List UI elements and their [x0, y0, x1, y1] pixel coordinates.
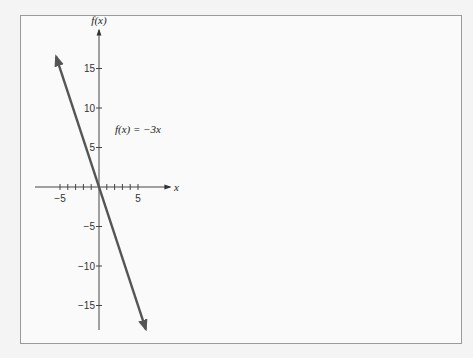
function-annotation: f(x) = −3x: [115, 123, 161, 136]
y-tick-label: −5: [84, 221, 96, 232]
y-tick-label: −10: [78, 261, 95, 272]
y-axis-label: f(x): [91, 14, 107, 27]
scan-artifact: [1, 328, 7, 342]
function-line: [56, 57, 146, 330]
y-tick-label: −15: [78, 300, 95, 311]
chart: −5515105−5−10−15xf(x)f(x) = −3x: [0, 0, 473, 358]
y-tick-label: 10: [84, 103, 96, 114]
x-tick-label: −5: [54, 193, 66, 204]
x-axis-label: x: [173, 181, 179, 193]
y-tick-label: 5: [89, 142, 95, 153]
x-tick-label: 5: [135, 193, 141, 204]
y-tick-label: 15: [84, 63, 96, 74]
